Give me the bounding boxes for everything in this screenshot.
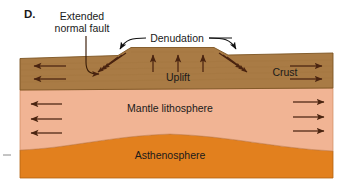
asthenosphere-label: Asthenosphere: [135, 149, 206, 161]
extended-normal-fault-label-line2: normal fault: [55, 22, 110, 34]
cross-section-diagram: D. Extended normal fault Denudation Upli…: [0, 0, 341, 191]
denudation-label: Denudation: [150, 32, 204, 44]
uplift-label: Uplift: [166, 71, 190, 83]
crust-label: Crust: [272, 66, 297, 78]
panel-label: D.: [24, 8, 36, 20]
mantle-lithosphere-label: Mantle lithosphere: [127, 102, 213, 114]
figure-panel: D. Extended normal fault Denudation Upli…: [0, 0, 341, 191]
extended-normal-fault-label-line1: Extended: [60, 10, 105, 22]
